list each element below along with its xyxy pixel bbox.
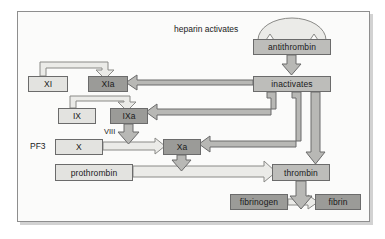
node-ix[interactable]: IX	[58, 108, 96, 124]
edge-inactivates-to-thrombin	[306, 92, 325, 164]
edge-antithrombin-to-inactivates	[282, 55, 301, 75]
node-thrombin[interactable]: thrombin	[272, 164, 330, 181]
edge-x-to-xa	[103, 138, 165, 154]
node-label: prothrombin	[71, 168, 117, 178]
node-ixa[interactable]: IXa	[110, 108, 148, 124]
viii-label: VIII	[104, 127, 115, 136]
edge-heparin-to-antithrombin	[258, 18, 326, 40]
node-label: X	[76, 142, 82, 152]
node-label: inactivates	[271, 79, 312, 89]
node-xia[interactable]: XIa	[88, 76, 128, 92]
node-label: fibrinogen	[240, 197, 278, 207]
node-label: IXa	[122, 111, 135, 121]
node-label: XI	[44, 79, 52, 89]
node-x[interactable]: X	[55, 139, 103, 155]
edge-inactivates-to-xa	[199, 92, 301, 152]
node-label: IX	[73, 111, 81, 121]
node-xa[interactable]: Xa	[163, 139, 201, 155]
diagram-canvas: antithrombin inactivates XI XIa IX IXa X…	[0, 0, 385, 239]
node-prothrombin[interactable]: prothrombin	[55, 164, 133, 181]
edge-inactivates-to-ixa	[146, 92, 276, 120]
node-label: Xa	[177, 142, 188, 152]
node-xi[interactable]: XI	[28, 76, 68, 92]
pf3-label: PF3	[30, 141, 46, 151]
node-antithrombin[interactable]: antithrombin	[253, 39, 331, 55]
node-label: fibrin	[328, 197, 347, 207]
node-inactivates[interactable]: inactivates	[253, 76, 331, 92]
edge-ixa-to-xa	[118, 124, 139, 144]
heparin-activates-label: heparin activates	[174, 24, 238, 34]
node-fibrinogen[interactable]: fibrinogen	[230, 194, 288, 210]
edge-inactivates-to-xia	[126, 75, 253, 90]
edge-prothrombin-to-thrombin	[133, 161, 276, 182]
node-label: antithrombin	[268, 42, 316, 52]
node-label: thrombin	[284, 168, 318, 178]
node-label: XIa	[101, 79, 114, 89]
node-fibrin[interactable]: fibrin	[315, 194, 361, 210]
